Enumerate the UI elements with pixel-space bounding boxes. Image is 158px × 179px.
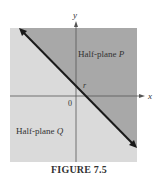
half-plane-p-var: P bbox=[118, 49, 125, 59]
figure-caption: FIGURE 7.5 bbox=[0, 164, 158, 175]
x-axis-label: x bbox=[147, 91, 152, 101]
half-plane-q-label: Half-plane Q bbox=[16, 126, 64, 136]
half-plane-p-label: Half-plane P bbox=[78, 49, 125, 59]
y-axis-arrow-icon bbox=[74, 21, 78, 27]
origin-label: 0 bbox=[68, 99, 72, 108]
half-plane-p-prefix: Half-plane bbox=[78, 49, 119, 59]
figure-7-5: y x 0 r Half-plane P Half-plane Q FIGURE… bbox=[0, 0, 158, 179]
half-plane-q-prefix: Half-plane bbox=[16, 126, 57, 136]
half-plane-diagram: y x 0 r Half-plane P Half-plane Q bbox=[0, 0, 158, 179]
half-plane-q-var: Q bbox=[57, 126, 64, 136]
x-axis-arrow-icon bbox=[139, 94, 145, 98]
y-axis-label: y bbox=[72, 10, 77, 20]
